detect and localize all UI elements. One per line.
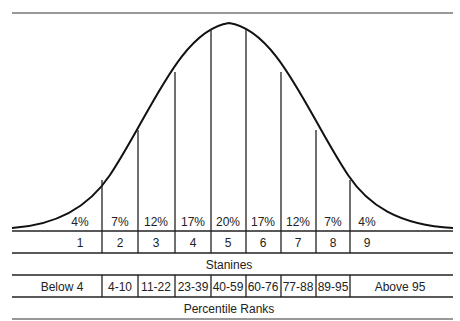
percent-label: 7% bbox=[111, 215, 128, 229]
percentile-label: 4-10 bbox=[108, 280, 132, 294]
percent-label: 12% bbox=[144, 215, 168, 229]
stanine-label: 3 bbox=[153, 236, 160, 250]
normal-curve-diagram bbox=[0, 0, 460, 321]
percent-label: 17% bbox=[181, 215, 205, 229]
bell-curve bbox=[12, 23, 453, 228]
percentile-label: Above 95 bbox=[375, 280, 426, 294]
percentile-label: 89-95 bbox=[318, 280, 349, 294]
stanine-label: 6 bbox=[260, 236, 267, 250]
percent-label: 17% bbox=[251, 215, 275, 229]
stanine-label: 5 bbox=[225, 236, 232, 250]
percentile-label: 40-59 bbox=[213, 280, 244, 294]
percentile-label: 11-22 bbox=[141, 280, 171, 294]
stanine-label: 8 bbox=[330, 236, 337, 250]
percentile-label: Below 4 bbox=[41, 280, 84, 294]
percentile-heading: Percentile Ranks bbox=[184, 302, 275, 316]
percent-label: 4% bbox=[358, 215, 375, 229]
stanine-label: 1 bbox=[77, 236, 84, 250]
percent-label: 12% bbox=[286, 215, 310, 229]
percent-label: 4% bbox=[71, 215, 88, 229]
percent-label: 7% bbox=[324, 215, 341, 229]
percentile-label: 77-88 bbox=[283, 280, 314, 294]
percentile-label: 23-39 bbox=[178, 280, 209, 294]
stanine-label: 4 bbox=[190, 236, 197, 250]
percentile-label: 60-76 bbox=[248, 280, 279, 294]
percent-label: 20% bbox=[216, 215, 240, 229]
stanines-heading: Stanines bbox=[206, 258, 253, 272]
stanine-label: 7 bbox=[295, 236, 302, 250]
stanine-label: 2 bbox=[117, 236, 124, 250]
stanine-label: 9 bbox=[364, 236, 371, 250]
